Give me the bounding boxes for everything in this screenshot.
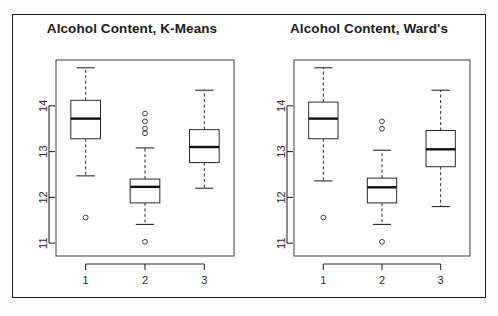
outlier-point (143, 126, 148, 131)
x-axis-tick-label: 3 (438, 274, 444, 286)
outlier-point (380, 239, 385, 244)
y-axis-tick-label: 14 (37, 100, 49, 112)
x-axis-tick-label: 1 (83, 274, 89, 286)
box-iqr (367, 178, 396, 203)
boxplot-kmeans: 11121314123 (13, 15, 251, 299)
x-axis-tick-label: 3 (201, 274, 207, 286)
outlier-point (143, 239, 148, 244)
box-iqr (130, 179, 160, 203)
outlier-point (143, 119, 148, 124)
outlier-point (143, 111, 148, 116)
y-axis-tick-label: 14 (275, 100, 287, 112)
panel-wards: Alcohol Content, Ward's 11121314123 (251, 15, 487, 299)
outlier-point (321, 215, 326, 220)
y-axis-tick-label: 12 (37, 191, 49, 203)
outlier-point (83, 215, 88, 220)
outlier-point (143, 131, 148, 136)
outlier-point (380, 119, 385, 124)
y-axis-tick-label: 13 (37, 145, 49, 157)
x-axis-tick-label: 2 (379, 274, 385, 286)
x-axis-tick-label: 2 (142, 274, 148, 286)
x-axis-tick-label: 1 (320, 274, 326, 286)
boxplot-wards: 11121314123 (251, 15, 487, 299)
figure-border: Alcohol Content, K-Means 11121314123 Alc… (12, 14, 486, 298)
y-axis-tick-label: 11 (275, 237, 287, 248)
box-iqr (309, 102, 338, 139)
panel-kmeans: Alcohol Content, K-Means 11121314123 (13, 15, 251, 299)
y-axis-tick-label: 13 (275, 145, 287, 157)
y-axis-tick-label: 11 (37, 237, 49, 248)
outlier-point (380, 126, 385, 131)
figure-root: Alcohol Content, K-Means 11121314123 Alc… (0, 0, 498, 316)
y-axis-tick-label: 12 (275, 191, 287, 203)
